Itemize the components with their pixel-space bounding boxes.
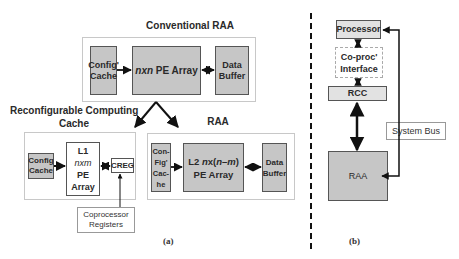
l1-line1: L1 [78, 145, 89, 157]
conventional-config-cache: Config' Cache [90, 46, 117, 95]
system-bus-label: System Bus [386, 122, 446, 140]
rcc-block: RCC [328, 86, 387, 101]
coproc-line2: Interface [340, 63, 378, 75]
raa-config-line3: Cac- [153, 168, 169, 179]
config-cache-line2: Cache [90, 71, 117, 82]
data-buffer-line2: Buffer [219, 71, 246, 82]
caption-b: (b) [349, 236, 360, 246]
l2-line1: L2 nx(n–m) [188, 155, 239, 168]
conventional-data-buffer: Data Buffer [215, 46, 249, 95]
coproc-reg-line1: Coprocessor [83, 210, 128, 220]
conventional-raa-title: Conventional RAA [130, 20, 250, 31]
rcc-config-cache: Config Cache [28, 153, 54, 179]
raa-config-cache: Con- Fig' Cac- he [151, 143, 171, 192]
processor-block: Processor [336, 20, 381, 39]
coproc-line1: Co-proc' [341, 51, 378, 63]
rcc-title-line2: Cache [10, 117, 138, 130]
pe-array-label: PE Array [153, 65, 198, 76]
l2-pe-array: L2 nx(n–m) PE Array [183, 143, 244, 192]
raa-config-line4: he [157, 179, 166, 190]
raa-config-line2: Fig' [154, 157, 167, 168]
l1-line3: PE [77, 169, 89, 181]
data-buffer-line1: Data [222, 60, 242, 71]
raa-data-line2: Buffer [263, 168, 287, 179]
l1-pe-array: L1 nxm PE Array [66, 142, 100, 196]
raa-data-line1: Data [266, 157, 283, 168]
arrow-split-to-rcc [135, 102, 156, 127]
l2-line2: PE Array [194, 168, 234, 181]
conventional-pe-array: nxn PE Array [132, 46, 201, 95]
arrow-split-to-raa [156, 102, 178, 127]
coproc-reg-line2: Registers [89, 220, 123, 230]
coprocessor-registers: Coprocessor Registers [77, 207, 135, 233]
rcc-title: Reconfigurable Computing Cache [10, 104, 138, 130]
config-cache-line1: Config' [88, 60, 119, 71]
coproc-interface-block: Co-proc' Interface [335, 47, 383, 78]
raa-title-a: RAA [195, 116, 241, 127]
caption-a: (a) [163, 236, 174, 246]
creg-block: CREG [111, 158, 134, 173]
raa-config-line1: Con- [152, 146, 169, 157]
l1-line2: nxm [74, 157, 91, 169]
l1-line4: Array [71, 181, 95, 193]
rcc-config-line2: Cache [29, 166, 53, 176]
raa-block-b: RAA [328, 151, 388, 201]
raa-data-buffer: Data Buffer [262, 143, 287, 192]
pe-array-dimension: nxn [135, 65, 153, 76]
rcc-title-line1: Reconfigurable Computing [10, 104, 138, 117]
rcc-config-line1: Config [28, 156, 53, 166]
